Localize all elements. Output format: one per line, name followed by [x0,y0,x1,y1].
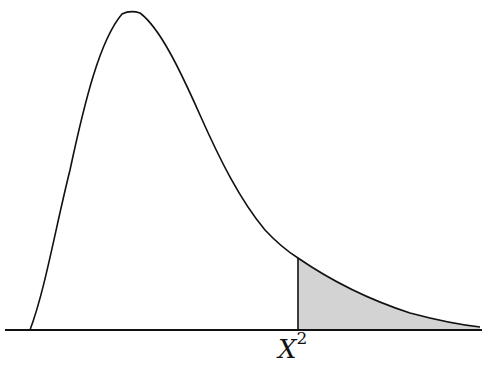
density-curve [30,12,480,330]
chi-square-diagram [0,0,486,378]
critical-value-label: X2 [278,332,307,364]
shaded-tail-region [298,258,480,330]
